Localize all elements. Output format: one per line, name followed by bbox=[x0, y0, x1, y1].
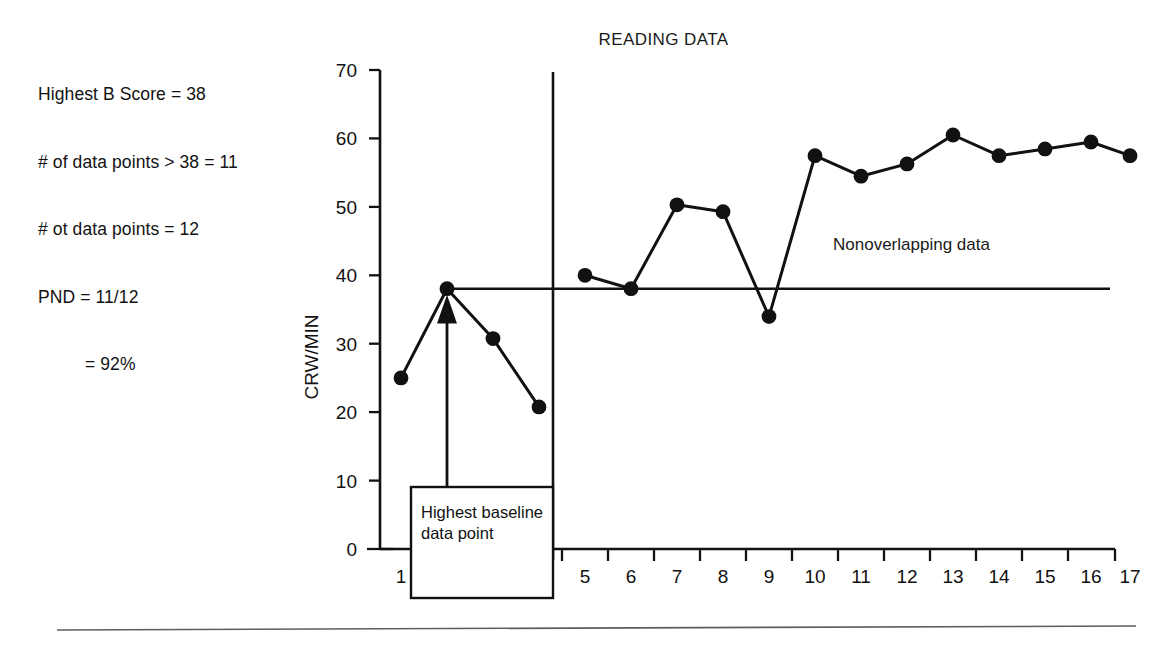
x-tick-label-12: 12 bbox=[896, 566, 917, 587]
y-axis bbox=[367, 70, 393, 549]
x-tick-label-6: 6 bbox=[626, 566, 637, 587]
data-point-session-10 bbox=[808, 148, 823, 163]
data-point-session-13 bbox=[946, 128, 961, 143]
nonoverlapping-data-label: Nonoverlapping data bbox=[833, 235, 990, 255]
data-point-session-16 bbox=[1084, 135, 1099, 150]
reading-data-chart: 70 60 50 40 30 20 10 0 CRW/MIN 1 5 6 7 8 bbox=[0, 0, 1151, 647]
x-tick-label-9: 9 bbox=[764, 566, 775, 587]
y-tick-labels: 70 60 50 40 30 20 10 0 bbox=[336, 60, 357, 560]
y-axis-title: CRW/MIN bbox=[301, 314, 322, 399]
data-point-session-12 bbox=[900, 157, 915, 172]
data-point-session-7 bbox=[670, 197, 685, 212]
data-point-session-11 bbox=[854, 169, 869, 184]
y-tick-label-60: 60 bbox=[336, 128, 357, 149]
x-tick-label-15: 15 bbox=[1034, 566, 1055, 587]
y-tick-label-50: 50 bbox=[336, 197, 357, 218]
y-tick-label-0: 0 bbox=[346, 539, 357, 560]
y-tick-label-70: 70 bbox=[336, 60, 357, 81]
data-point-session-15 bbox=[1038, 142, 1053, 157]
y-tick-label-40: 40 bbox=[336, 265, 357, 286]
data-point-session-4 bbox=[532, 400, 547, 415]
data-point-session-3 bbox=[486, 331, 501, 346]
baseline-series-line bbox=[401, 289, 539, 407]
intervention-data-points bbox=[578, 128, 1138, 324]
data-point-session-8 bbox=[716, 204, 731, 219]
x-tick-label-8: 8 bbox=[718, 566, 729, 587]
x-tick-label-13: 13 bbox=[942, 566, 963, 587]
x-tick-label-10: 10 bbox=[804, 566, 825, 587]
x-tick-label-16: 16 bbox=[1080, 566, 1101, 587]
x-tick-label-7: 7 bbox=[672, 566, 683, 587]
data-point-session-5 bbox=[578, 268, 593, 283]
x-tick-label-11: 11 bbox=[851, 566, 871, 587]
bottom-divider-rule bbox=[57, 626, 1136, 630]
y-tick-label-20: 20 bbox=[336, 402, 357, 423]
data-point-session-14 bbox=[992, 148, 1007, 163]
highest-baseline-callout-label: Highest baseline data point bbox=[421, 502, 547, 544]
data-point-session-9 bbox=[762, 309, 777, 324]
x-tick-label-14: 14 bbox=[988, 566, 1010, 587]
data-point-session-17 bbox=[1123, 148, 1138, 163]
x-tick-label-5: 5 bbox=[580, 566, 591, 587]
data-point-session-6 bbox=[624, 281, 639, 296]
y-tick-label-10: 10 bbox=[336, 471, 357, 492]
x-tick-label-17: 17 bbox=[1119, 566, 1140, 587]
y-tick-label-30: 30 bbox=[336, 334, 357, 355]
x-tick-label-1: 1 bbox=[396, 566, 407, 587]
highest-baseline-pointer-arrow bbox=[439, 299, 455, 487]
data-point-session-1 bbox=[394, 371, 409, 386]
data-point-session-2 bbox=[440, 281, 455, 296]
